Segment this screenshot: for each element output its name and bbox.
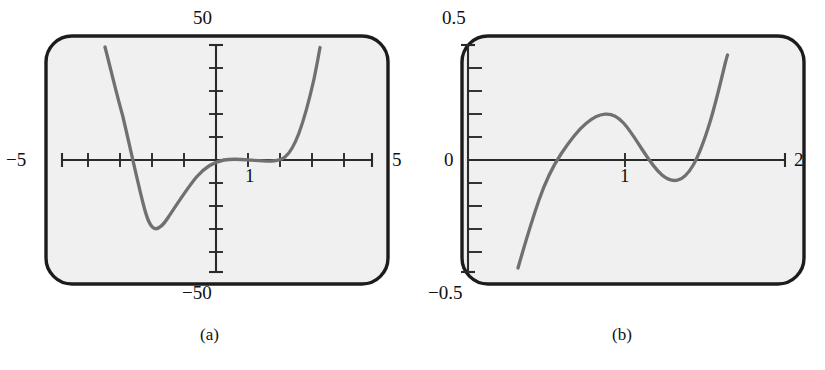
figure-container: 50 −50 −5 5 1 (a)	[0, 0, 825, 370]
y-min-label-b: −0.5	[428, 283, 462, 302]
y-max-label-b: 0.5	[442, 8, 466, 27]
panel-a-plot	[0, 0, 412, 370]
x-min-label-a: −5	[6, 150, 26, 169]
x-tick-label-one-a: 1	[245, 166, 255, 185]
graph-panel-b: 0.5 −0.5 0 2 1 (b)	[412, 0, 824, 370]
x-tick-label-one-b: 1	[620, 166, 630, 185]
x-min-label-b: 0	[444, 150, 454, 169]
y-max-label-a: 50	[193, 8, 212, 27]
panel-caption-a: (a)	[200, 326, 219, 343]
x-max-label-a: 5	[392, 150, 402, 169]
y-min-label-a: −50	[182, 283, 212, 302]
graph-panel-a: 50 −50 −5 5 1 (a)	[0, 0, 412, 370]
panel-b-plot	[412, 0, 824, 370]
panel-caption-b: (b)	[612, 326, 632, 343]
x-max-label-b: 2	[794, 150, 804, 169]
